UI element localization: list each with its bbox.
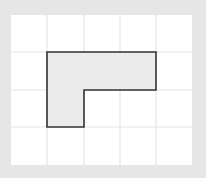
- grid-diagram: [0, 0, 206, 178]
